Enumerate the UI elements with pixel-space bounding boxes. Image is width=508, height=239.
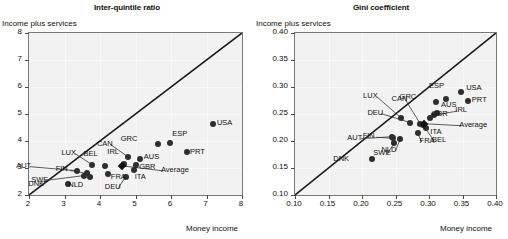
data-point-label: DEU <box>105 183 121 191</box>
panel-gini-coefficient: Gini coefficient Income plus services Mo… <box>254 0 508 239</box>
y-axis-tick-label: 0.30 <box>246 81 288 90</box>
data-point-label: LUX <box>61 149 76 157</box>
y-axis-tick <box>291 168 295 169</box>
y-axis-tick <box>25 60 29 61</box>
panel-title: Inter-quintile ratio <box>0 3 254 12</box>
data-point <box>74 168 80 174</box>
data-point-label: IRL <box>455 106 467 114</box>
y-axis-tick-label: 8 <box>0 27 22 36</box>
data-point-label: NLD <box>68 181 83 189</box>
data-point <box>125 154 131 160</box>
x-axis-label: Money income <box>440 224 492 233</box>
y-axis-tick-label: 7 <box>0 54 22 63</box>
panel-title: Gini coefficient <box>254 3 508 12</box>
y-axis-tick <box>291 195 295 196</box>
y-axis-tick <box>25 33 29 34</box>
y-axis-tick <box>291 141 295 142</box>
y-axis-tick-label: 0.40 <box>246 27 288 36</box>
x-axis-tick-label: 4 <box>79 199 119 208</box>
data-point-label: DNK <box>28 180 44 188</box>
data-point-label: FRA <box>111 173 126 181</box>
y-axis-tick-label: 6 <box>0 81 22 90</box>
gridline-horizontal <box>295 168 496 169</box>
data-point-label: ESP <box>172 130 187 138</box>
y-axis-tick-label: 4 <box>0 135 22 144</box>
panel-inter-quintile-ratio: Inter-quintile ratio Income plus service… <box>0 0 254 239</box>
data-point-label: CAN <box>97 140 113 148</box>
data-point <box>167 140 173 146</box>
data-point <box>89 162 95 168</box>
data-point-label: ITA <box>430 128 441 136</box>
data-point-label: AUS <box>144 153 159 161</box>
data-point-label: USA <box>466 84 481 92</box>
gridline-horizontal <box>295 114 496 115</box>
data-point <box>155 141 161 147</box>
y-axis-tick-label: 0.20 <box>246 135 288 144</box>
gridline-horizontal <box>29 87 242 88</box>
gridline-horizontal <box>295 60 496 61</box>
data-point-label: BEL <box>432 136 446 144</box>
data-point-label: PRT <box>472 96 487 104</box>
y-axis-tick <box>291 60 295 61</box>
y-axis-tick-label: 0.35 <box>246 54 288 63</box>
x-axis-tick-label: 0.40 <box>475 199 508 208</box>
gridline-horizontal <box>29 114 242 115</box>
data-point-label: GBR <box>139 163 155 171</box>
y-axis-tick <box>25 114 29 115</box>
data-point-label: Average <box>459 121 487 129</box>
data-point-label: DEU <box>367 109 383 117</box>
y-axis-tick-label: 5 <box>0 108 22 117</box>
y-axis-tick <box>291 33 295 34</box>
y-axis-tick <box>25 195 29 196</box>
y-axis-tick-label: 0.10 <box>246 189 288 198</box>
data-point-label: PRT <box>190 148 205 156</box>
data-point-label: IRL <box>107 148 119 156</box>
x-axis-tick-label: 3 <box>44 199 84 208</box>
data-point-label: DNK <box>333 155 349 163</box>
y-axis-tick <box>25 87 29 88</box>
data-point <box>458 89 464 95</box>
data-point-label: AUT <box>347 134 362 142</box>
gridline-horizontal <box>29 60 242 61</box>
data-point-label: FIN <box>363 132 375 140</box>
x-axis-tick-label: 7 <box>186 199 226 208</box>
y-axis-tick <box>291 87 295 88</box>
data-point-label: BEL <box>84 150 98 158</box>
data-point-label: GBR <box>431 110 447 118</box>
data-point-label: AUT <box>16 162 31 170</box>
data-point-label: GRC <box>121 135 138 143</box>
figure-panels: Inter-quintile ratio Income plus service… <box>0 0 508 239</box>
data-point <box>407 120 413 126</box>
y-axis-tick-label: 0.15 <box>246 162 288 171</box>
data-point <box>398 115 404 121</box>
data-point-label: AUS <box>441 101 456 109</box>
data-point-label: LUX <box>363 92 378 100</box>
y-axis-tick-label: 2 <box>0 189 22 198</box>
data-point <box>465 98 471 104</box>
data-point <box>87 174 93 180</box>
y-axis-tick <box>25 141 29 142</box>
y-axis-tick-label: 0.25 <box>246 108 288 117</box>
x-axis-tick-label: 5 <box>115 199 155 208</box>
y-axis-tick <box>291 114 295 115</box>
data-point <box>433 99 439 105</box>
data-point-label: NLD <box>381 146 396 154</box>
data-point <box>210 121 216 127</box>
data-point-label: GRC <box>400 93 417 101</box>
x-axis-label: Money income <box>186 224 238 233</box>
x-axis-tick-label: 2 <box>8 199 48 208</box>
data-point-label: ESP <box>429 82 444 90</box>
data-point-label: Average <box>161 166 189 174</box>
data-point-label: USA <box>217 119 232 127</box>
data-point <box>415 130 421 136</box>
data-point-label: FIN <box>56 165 68 173</box>
x-axis-tick-label: 6 <box>150 199 190 208</box>
data-point-label: ITA <box>135 173 146 181</box>
